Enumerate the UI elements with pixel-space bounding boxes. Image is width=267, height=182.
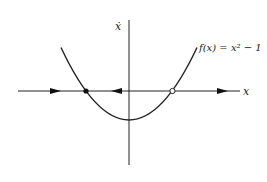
flow-arrow-left-icon [111,88,122,94]
y-axis-label: ẋ [115,20,122,33]
flow-arrow-right-icon [217,88,228,94]
unstable-fixed-point [170,88,175,93]
stable-fixed-point [83,88,88,93]
flow-arrow-right-icon [50,88,61,94]
x-axis-label: x [243,85,250,98]
phase-portrait-diagram: x ẋ f(x) = x² − 1 [0,0,267,182]
function-label: f(x) = x² − 1 [198,42,262,53]
